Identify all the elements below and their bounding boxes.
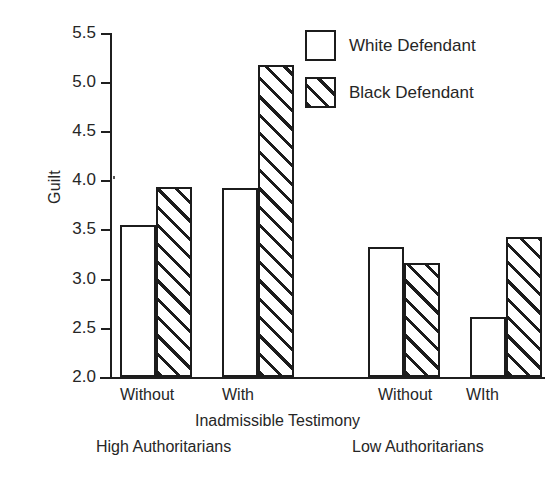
y-tick-label-4-5: 4.5 [36,121,96,141]
y-tick-5-5 [101,33,112,35]
legend-swatch-hatched-icon [305,77,336,108]
bar-low-without-black[interactable] [404,263,440,377]
x-tick-label-low-with: WIth [466,386,499,404]
x-tick-label-high-with: With [222,386,254,404]
y-tick-3-0 [101,279,112,281]
y-tick-label-5-5: 5.5 [36,23,96,43]
legend-item-white-defendant[interactable]: White Defendant [305,30,476,61]
y-tick-4-0 [101,180,112,182]
x-axis-label: Inadmissible Testimony [0,412,555,430]
bar-high-without-white[interactable] [120,225,156,377]
bar-low-with-white[interactable] [470,317,506,377]
bar-low-without-white[interactable] [368,247,404,377]
y-tick-3-5 [101,229,112,231]
y-tick-2-5 [101,328,112,330]
group-label-low-authoritarians: Low Authoritarians [352,438,484,456]
legend-label-white-defendant: White Defendant [349,36,476,56]
y-tick-label-2-5: 2.5 [36,318,96,338]
x-tick-label-low-without: Without [378,386,432,404]
x-tick-label-high-without: Without [120,386,174,404]
legend-label-black-defendant: Black Defendant [349,83,474,103]
y-tick-label-5-0: 5.0 [36,72,96,92]
bar-high-without-black[interactable] [156,187,192,377]
legend: White Defendant Black Defendant [305,30,476,124]
legend-swatch-solid-icon [305,30,336,61]
y-tick-5-0 [101,82,112,84]
group-label-high-authoritarians: High Authoritarians [96,438,231,456]
legend-item-black-defendant[interactable]: Black Defendant [305,77,476,108]
bar-chart-figure: Guilt 5.5 5.0 4.5 4.0 3.5 3.0 2.5 2.0 Wi… [0,0,555,484]
y-tick-label-4-0: 4.0 [36,170,96,190]
bar-high-with-black[interactable] [258,65,294,378]
y-tick-label-3-5: 3.5 [36,219,96,239]
y-tick-label-3-0: 3.0 [36,269,96,289]
bar-high-with-white[interactable] [222,188,258,377]
y-tick-label-2-0: 2.0 [36,367,96,387]
bar-low-with-black[interactable] [506,237,542,378]
y-tick-4-5 [101,131,112,133]
x-axis-line [100,377,545,379]
